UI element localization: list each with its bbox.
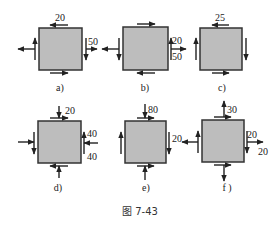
stress-element-square	[38, 121, 81, 163]
figure-7-43: 2050a)2050b)25c)204040d)8020e)302020f ) …	[0, 0, 280, 236]
stress-value: 40	[87, 128, 97, 139]
panel-d: 204040d)	[18, 105, 98, 194]
stress-value: 50	[172, 51, 182, 62]
figure-caption: 图 7-43	[0, 203, 280, 218]
panel-f: 302020f )	[182, 101, 268, 194]
stress-element-square	[123, 27, 168, 70]
stress-element-square	[202, 120, 244, 162]
stress-element-diagram: 2050a)2050b)25c)204040d)8020e)302020f )	[0, 0, 280, 236]
stress-value: 20	[247, 129, 257, 140]
stress-value: 80	[148, 104, 158, 115]
panel-label: f )	[222, 182, 231, 194]
stress-value: 20	[172, 133, 182, 144]
panel-label: d)	[54, 182, 62, 194]
stress-element-square	[39, 28, 82, 70]
stress-value: 25	[215, 12, 225, 23]
panel-label: b)	[141, 82, 149, 94]
stress-element-square	[125, 121, 166, 163]
stress-value: 20	[55, 12, 65, 23]
panel-b: 2050b)	[102, 24, 186, 94]
panel-label: e)	[142, 182, 150, 194]
panel-a: 2050a)	[18, 12, 98, 94]
stress-element-square	[200, 28, 242, 70]
stress-value: 30	[227, 104, 237, 115]
stress-value: 20	[258, 146, 268, 157]
panel-c: 25c)	[196, 12, 246, 94]
panel-e: 8020e)	[121, 104, 182, 194]
stress-value: 50	[88, 36, 98, 47]
stress-value: 20	[65, 105, 75, 116]
panel-label: a)	[56, 82, 64, 94]
stress-value: 20	[172, 35, 182, 46]
stress-value: 40	[87, 151, 97, 162]
panel-label: c)	[218, 82, 226, 94]
